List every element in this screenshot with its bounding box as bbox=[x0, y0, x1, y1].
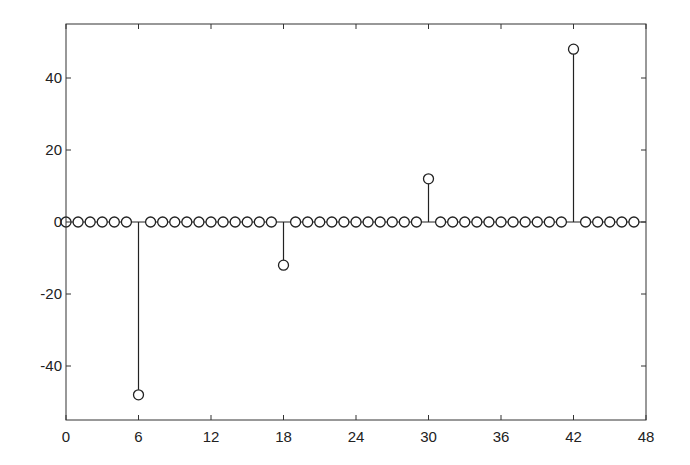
stem-point bbox=[460, 217, 470, 227]
stem-marker bbox=[291, 217, 301, 227]
stem-marker bbox=[327, 217, 337, 227]
stem-point bbox=[411, 217, 421, 227]
stem-marker bbox=[351, 217, 361, 227]
stem-marker bbox=[158, 217, 168, 227]
stem-point bbox=[581, 217, 591, 227]
stem-marker bbox=[556, 217, 566, 227]
stem-point bbox=[242, 217, 252, 227]
stem-marker bbox=[121, 217, 131, 227]
y-tick-label: 20 bbox=[45, 141, 62, 158]
stem-marker bbox=[508, 217, 518, 227]
stem-point bbox=[254, 217, 264, 227]
stem-point bbox=[520, 217, 530, 227]
stem-marker bbox=[134, 390, 144, 400]
x-axis-ticks: 0612182430364248 bbox=[62, 24, 655, 445]
x-tick-label: 36 bbox=[493, 428, 510, 445]
stem-point bbox=[158, 217, 168, 227]
stem-point bbox=[85, 217, 95, 227]
stem-point bbox=[182, 217, 192, 227]
y-tick-label: 0 bbox=[54, 213, 62, 230]
stem-marker bbox=[424, 174, 434, 184]
stem-point bbox=[399, 217, 409, 227]
stem-point bbox=[218, 217, 228, 227]
stem-point bbox=[508, 217, 518, 227]
stem-marker bbox=[387, 217, 397, 227]
stem-marker bbox=[109, 217, 119, 227]
stem-marker bbox=[315, 217, 325, 227]
stem-point bbox=[339, 217, 349, 227]
x-tick-label: 6 bbox=[134, 428, 142, 445]
stem-marker bbox=[617, 217, 627, 227]
stem-point bbox=[266, 217, 276, 227]
stem-marker bbox=[339, 217, 349, 227]
stem-point bbox=[629, 217, 639, 227]
stem-marker bbox=[170, 217, 180, 227]
stem-marker bbox=[581, 217, 591, 227]
stem-point bbox=[327, 217, 337, 227]
stem-marker bbox=[520, 217, 530, 227]
x-tick-label: 30 bbox=[420, 428, 437, 445]
stem-point bbox=[569, 44, 579, 222]
stem-marker bbox=[218, 217, 228, 227]
stem-marker bbox=[206, 217, 216, 227]
stem-point bbox=[194, 217, 204, 227]
stem-point bbox=[134, 222, 144, 400]
stem-point bbox=[375, 217, 385, 227]
stem-point bbox=[448, 217, 458, 227]
stem-marker bbox=[399, 217, 409, 227]
stem-marker bbox=[460, 217, 470, 227]
stem-marker bbox=[303, 217, 313, 227]
stem-chart: 0612182430364248 -40-2002040 bbox=[0, 0, 690, 465]
stem-marker bbox=[448, 217, 458, 227]
stem-point bbox=[109, 217, 119, 227]
stem-point bbox=[496, 217, 506, 227]
stem-marker bbox=[629, 217, 639, 227]
stem-point bbox=[436, 217, 446, 227]
stem-point bbox=[97, 217, 107, 227]
stem-marker bbox=[484, 217, 494, 227]
stem-marker bbox=[472, 217, 482, 227]
stem-marker bbox=[569, 44, 579, 54]
stem-marker bbox=[146, 217, 156, 227]
stem-marker bbox=[593, 217, 603, 227]
stem-point bbox=[617, 217, 627, 227]
stem-marker bbox=[254, 217, 264, 227]
stem-point bbox=[291, 217, 301, 227]
stem-point bbox=[73, 217, 83, 227]
stem-point bbox=[387, 217, 397, 227]
stem-marker bbox=[85, 217, 95, 227]
stem-point bbox=[315, 217, 325, 227]
stem-marker bbox=[411, 217, 421, 227]
stem-marker bbox=[97, 217, 107, 227]
stem-point bbox=[472, 217, 482, 227]
stem-point bbox=[424, 174, 434, 222]
y-tick-label: 40 bbox=[45, 69, 62, 86]
x-tick-label: 12 bbox=[203, 428, 220, 445]
stem-marker bbox=[496, 217, 506, 227]
stem-point bbox=[484, 217, 494, 227]
stem-marker bbox=[532, 217, 542, 227]
stem-point bbox=[279, 222, 289, 270]
stem-marker bbox=[279, 260, 289, 270]
stem-point bbox=[351, 217, 361, 227]
stem-point bbox=[605, 217, 615, 227]
x-tick-label: 48 bbox=[638, 428, 655, 445]
stem-marker bbox=[73, 217, 83, 227]
stem-marker bbox=[605, 217, 615, 227]
stem-marker bbox=[230, 217, 240, 227]
stem-marker bbox=[375, 217, 385, 227]
stem-point bbox=[363, 217, 373, 227]
y-tick-label: -20 bbox=[40, 285, 62, 302]
stem-point bbox=[170, 217, 180, 227]
stem-point bbox=[146, 217, 156, 227]
stem-marker bbox=[182, 217, 192, 227]
stem-point bbox=[544, 217, 554, 227]
x-tick-label: 42 bbox=[565, 428, 582, 445]
stem-point bbox=[303, 217, 313, 227]
stem-marker bbox=[194, 217, 204, 227]
stem-point bbox=[593, 217, 603, 227]
y-tick-label: -40 bbox=[40, 357, 62, 374]
x-tick-label: 24 bbox=[348, 428, 365, 445]
stem-marker bbox=[544, 217, 554, 227]
stem-marker bbox=[363, 217, 373, 227]
